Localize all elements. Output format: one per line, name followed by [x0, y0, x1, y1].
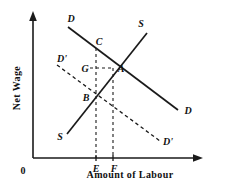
y-axis-arrow-icon	[29, 11, 37, 21]
x-axis-arrow-icon	[193, 154, 203, 162]
y-axis-title: Net Wage	[11, 66, 22, 111]
chart-container: Net Wage Amount of Labour 0 D D S S D'	[0, 0, 245, 187]
axes-group	[29, 11, 203, 162]
origin-label: 0	[21, 165, 26, 176]
demand-shift-bottom-label: D'	[162, 136, 173, 147]
labour-market-diagram: Net Wage Amount of Labour 0 D D S S D'	[0, 0, 245, 187]
demand-curve-d-prime	[57, 65, 160, 141]
point-label-b: B	[82, 92, 90, 103]
x-tick-label-e: E	[92, 163, 100, 174]
supply-curve-s	[67, 33, 147, 134]
supply-bottom-label: S	[57, 131, 63, 142]
demand-top-label: D	[66, 13, 74, 24]
construction-lines-group	[90, 48, 113, 158]
demand-bottom-label: D	[183, 105, 191, 116]
demand-shift-top-label: D'	[56, 53, 67, 64]
point-label-a: A	[117, 63, 125, 74]
point-label-g: G	[81, 63, 89, 74]
x-axis-title: Amount of Labour	[87, 169, 174, 180]
x-tick-label-f: F	[110, 163, 118, 174]
point-label-c: C	[96, 36, 103, 47]
supply-top-label: S	[138, 18, 144, 29]
